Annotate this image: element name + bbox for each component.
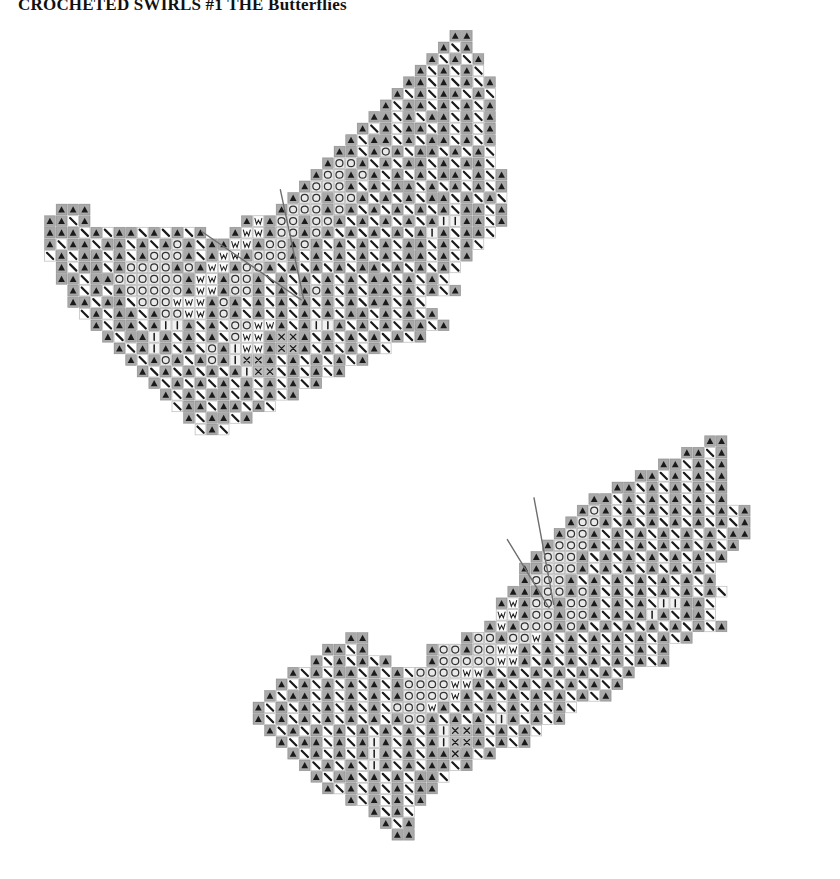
- cross-stitch-chart[interactable]: [21, 30, 820, 862]
- pattern-page: CROCHETED SWIRLS #1 THE Butterflies: [0, 0, 840, 879]
- page-title: CROCHETED SWIRLS #1 THE Butterflies: [18, 0, 347, 15]
- chart-backstitch-layer: [21, 30, 820, 862]
